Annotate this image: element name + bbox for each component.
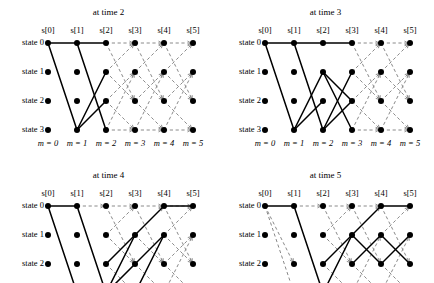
trellis-node[interactable] (161, 261, 167, 267)
trellis-node[interactable] (132, 40, 138, 46)
trellis-node[interactable] (161, 40, 167, 46)
trellis-node[interactable] (407, 203, 413, 209)
trellis-node[interactable] (320, 261, 326, 267)
trellis-node[interactable] (349, 98, 355, 104)
trellis-node[interactable] (161, 69, 167, 75)
trellis-node[interactable] (407, 127, 413, 133)
trellis-node[interactable] (45, 127, 51, 133)
trellis-node[interactable] (262, 232, 268, 238)
trellis-node[interactable] (291, 98, 297, 104)
trellis-node[interactable] (320, 232, 326, 238)
trellis-figure: at time 2 s[0] s[1] s[2] s[3] s[4] s[5] … (0, 0, 434, 283)
candidate-edge (135, 101, 164, 130)
trellis-node[interactable] (103, 261, 109, 267)
trellis-node[interactable] (378, 98, 384, 104)
trellis-node[interactable] (103, 127, 109, 133)
m-label-4: m = 4 (148, 138, 180, 148)
trellis-node[interactable] (407, 40, 413, 46)
candidate-edge (106, 72, 135, 130)
trellis-node[interactable] (190, 98, 196, 104)
trellis-node[interactable] (320, 40, 326, 46)
trellis-node[interactable] (378, 232, 384, 238)
candidate-edge (265, 206, 294, 283)
trellis-node[interactable] (190, 203, 196, 209)
trellis-node[interactable] (45, 69, 51, 75)
trellis-node[interactable] (45, 203, 51, 209)
trellis-node[interactable] (74, 127, 80, 133)
trellis-node[interactable] (190, 69, 196, 75)
trellis-node[interactable] (161, 98, 167, 104)
trellis-node[interactable] (74, 203, 80, 209)
trellis-node[interactable] (74, 261, 80, 267)
trellis-node[interactable] (103, 69, 109, 75)
trellis-node[interactable] (74, 69, 80, 75)
trellis-node[interactable] (349, 203, 355, 209)
trellis-node[interactable] (190, 261, 196, 267)
trellis-node[interactable] (291, 261, 297, 267)
trellis-node[interactable] (45, 40, 51, 46)
m-label-0: m = 0 (32, 138, 64, 148)
candidate-edge (135, 206, 164, 264)
trellis-node[interactable] (378, 40, 384, 46)
trellis-node[interactable] (378, 261, 384, 267)
trellis-node[interactable] (407, 69, 413, 75)
trellis-node[interactable] (320, 127, 326, 133)
trellis-node[interactable] (349, 127, 355, 133)
trellis-node[interactable] (103, 98, 109, 104)
trellis-node[interactable] (45, 98, 51, 104)
trellis-node[interactable] (45, 261, 51, 267)
m-label-3: m = 3 (336, 138, 368, 148)
trellis-node[interactable] (74, 98, 80, 104)
trellis-node[interactable] (291, 69, 297, 75)
candidate-edge (164, 72, 193, 130)
trellis-node[interactable] (132, 203, 138, 209)
trellis-node[interactable] (291, 232, 297, 238)
trellis-node[interactable] (103, 40, 109, 46)
trellis-node[interactable] (262, 69, 268, 75)
trellis-node[interactable] (407, 232, 413, 238)
trellis-node[interactable] (161, 127, 167, 133)
candidate-edge (106, 43, 135, 101)
trellis-node[interactable] (349, 261, 355, 267)
candidate-edge (106, 101, 135, 130)
trellis-node[interactable] (320, 98, 326, 104)
trellis-graph (217, 163, 434, 283)
trellis-node[interactable] (262, 261, 268, 267)
trellis-node[interactable] (45, 232, 51, 238)
survivor-path-edge (48, 43, 77, 130)
trellis-node[interactable] (291, 203, 297, 209)
trellis-node[interactable] (262, 127, 268, 133)
trellis-node[interactable] (349, 232, 355, 238)
trellis-node[interactable] (190, 40, 196, 46)
trellis-node[interactable] (291, 40, 297, 46)
trellis-node[interactable] (378, 127, 384, 133)
trellis-node[interactable] (378, 203, 384, 209)
trellis-node[interactable] (161, 203, 167, 209)
trellis-node[interactable] (132, 69, 138, 75)
trellis-node[interactable] (262, 203, 268, 209)
trellis-node[interactable] (407, 261, 413, 267)
trellis-node[interactable] (74, 40, 80, 46)
trellis-node[interactable] (74, 232, 80, 238)
candidate-edge (352, 206, 381, 264)
trellis-node[interactable] (349, 40, 355, 46)
trellis-node[interactable] (262, 40, 268, 46)
trellis-node[interactable] (132, 98, 138, 104)
trellis-node[interactable] (132, 232, 138, 238)
trellis-node[interactable] (407, 98, 413, 104)
trellis-node[interactable] (161, 232, 167, 238)
trellis-node[interactable] (190, 232, 196, 238)
trellis-node[interactable] (320, 203, 326, 209)
trellis-node[interactable] (320, 69, 326, 75)
trellis-node[interactable] (190, 127, 196, 133)
candidate-edge (381, 264, 410, 283)
trellis-node[interactable] (103, 232, 109, 238)
trellis-node[interactable] (262, 98, 268, 104)
trellis-node[interactable] (378, 69, 384, 75)
trellis-node[interactable] (132, 261, 138, 267)
trellis-node[interactable] (132, 127, 138, 133)
trellis-node[interactable] (291, 127, 297, 133)
survivor-path-edge (294, 206, 323, 283)
trellis-node[interactable] (103, 203, 109, 209)
trellis-node[interactable] (349, 69, 355, 75)
